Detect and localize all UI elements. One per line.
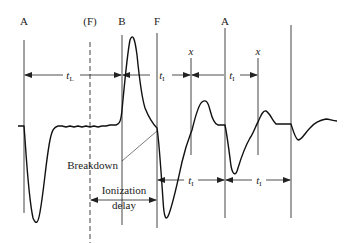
label-x1: x xyxy=(188,45,194,57)
delay-label-text: delay xyxy=(112,199,136,211)
label-F-dashed: (F) xyxy=(83,15,97,28)
label-A1: A xyxy=(20,15,28,27)
interval-tI-3: tI xyxy=(188,174,194,188)
waveform-timing-diagram: A (F) B F A x x tL tI tI tI tI Ionizatio… xyxy=(0,0,363,243)
label-A2: A xyxy=(221,15,229,27)
interval-tL: tL xyxy=(66,69,73,83)
waveform-trace xyxy=(18,37,337,223)
interval-tI-2: tI xyxy=(229,69,235,83)
label-B: B xyxy=(118,15,125,27)
ionization-label: Ionization xyxy=(102,184,147,196)
top-labels: A (F) B F A x x xyxy=(20,15,261,57)
interval-tI-1: tI xyxy=(159,69,165,83)
breakdown-leader-line xyxy=(122,131,157,161)
label-F: F xyxy=(154,15,160,27)
breakdown-label: Breakdown xyxy=(67,159,118,171)
label-x2: x xyxy=(255,45,261,57)
interval-tI-4: tI xyxy=(256,174,262,188)
